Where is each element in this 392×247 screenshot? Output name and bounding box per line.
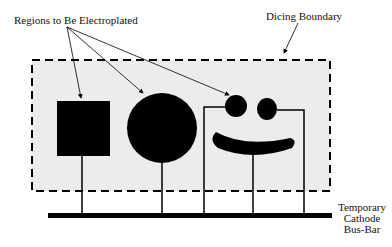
bus-bar-label: Temporary Cathode Bus-Bar	[332, 202, 392, 235]
right-eye-region	[257, 98, 277, 120]
large-circle-region	[127, 93, 197, 163]
left-eye-region	[225, 95, 247, 117]
square-region	[57, 101, 110, 156]
cathode-bus-bar	[48, 213, 332, 218]
bus-bar-label-line3: Bus-Bar	[332, 224, 392, 235]
regions-label: Regions to Be Electroplated	[14, 14, 138, 26]
dicing-boundary-label: Dicing Boundary	[266, 10, 342, 22]
